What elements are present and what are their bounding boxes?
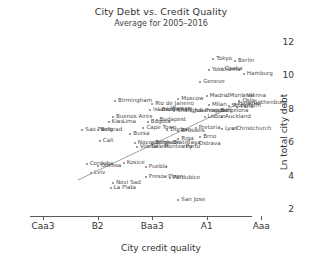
point-label: Berlin [238,58,254,64]
data-point [190,110,192,112]
x-axis-title: City credit quality [0,243,322,253]
chart-title: City Debt vs. Credit Quality [0,6,322,17]
data-point [208,69,210,71]
data-point [166,129,168,131]
point-label: Brno [203,134,216,140]
data-point [99,140,101,142]
data-point [129,133,131,135]
point-label: Brussels [181,128,204,134]
data-point [97,129,99,131]
x-tick [207,216,208,220]
x-tick [152,216,153,220]
point-label: Lima [122,120,136,126]
point-label: La Plata [114,186,136,192]
point-label: Cali [103,138,113,144]
point-label: Puebla [149,165,168,171]
data-point [217,110,219,112]
x-tick-label: Caa3 [32,221,55,231]
data-point [164,176,166,178]
point-label: Kosice [127,161,145,167]
x-tick-label: A1 [201,221,213,231]
x-axis-line [30,216,252,217]
data-point [110,187,112,189]
data-point [90,172,92,174]
data-point [123,162,125,164]
point-label: Ostrava [199,141,221,147]
data-point [86,163,88,165]
data-point [158,109,160,111]
data-point [234,60,236,62]
data-point [112,182,114,184]
point-label: Bursa [133,131,149,137]
data-point [136,146,138,148]
data-point [147,121,149,123]
data-point [199,136,201,138]
data-point [160,146,162,148]
data-point [208,104,210,106]
point-label: Odessa [101,163,122,169]
x-tick [98,216,99,220]
data-point [149,109,151,111]
x-tick-label: Baa3 [141,221,164,231]
data-point [134,142,136,144]
point-label: Hamburg [247,71,273,77]
data-point [114,100,116,102]
point-label: Tokyo [216,56,232,62]
data-point [97,165,99,167]
data-point [225,95,227,97]
x-tick [261,216,262,220]
point-label: Pardubice [173,175,200,181]
data-point [108,121,110,123]
y-tick-label: 2 [288,204,294,214]
x-tick-label: B2 [92,221,104,231]
plot-area: TokyoBerlinYokohamaOsakaHamburgGeneveMad… [30,32,270,216]
data-point [177,130,179,132]
y-tick-label: 12 [283,37,294,47]
point-label: Geneve [203,79,225,85]
point-label: Belgrad [101,127,123,133]
point-label: San Jose [181,197,205,203]
point-label: Lyon [225,126,238,132]
data-point [169,177,171,179]
y-tick-label: 4 [288,171,294,181]
point-label: Lisbon [208,115,226,121]
data-point [199,81,201,83]
point-label: Monterrey [164,145,193,151]
data-point [145,166,147,168]
data-point [81,129,83,131]
scatter-chart: City Debt vs. Credit Quality Average for… [0,0,322,265]
data-point [177,199,179,201]
data-point [145,176,147,178]
data-point [151,103,153,105]
point-label: Auckland [225,115,251,121]
data-point [118,121,120,123]
data-point [221,68,223,70]
y-tick-label: 10 [283,70,294,80]
point-label: Osaka [225,66,242,72]
point-label: Birmingham [118,99,152,105]
data-point [206,95,208,97]
data-point [212,58,214,60]
data-point [204,116,206,118]
x-tick-label: Aaa [253,221,270,231]
point-label: Christchurch [236,126,271,132]
data-point [243,73,245,75]
x-tick [43,216,44,220]
y-axis-title: Ln total city debt [280,94,290,171]
point-label: Bucharest [162,107,190,113]
point-label: Lviv [94,171,105,177]
chart-subtitle: Average for 2005–2016 [0,19,322,28]
data-point [147,146,149,148]
data-point [221,128,223,130]
data-point [142,127,144,129]
